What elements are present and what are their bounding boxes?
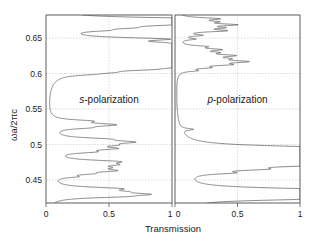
x-tick-label-left-05: 0.5 (103, 209, 115, 219)
y-tick-label: 0.45 (25, 175, 42, 185)
panel-s-polarization: s-polarization (46, 15, 172, 203)
x-tick-marks (46, 203, 300, 207)
x-tick-label-left-0: 0 (44, 209, 49, 219)
x-tick-label-right-0: 0 (176, 209, 181, 219)
y-axis-title: ωa/2πc (8, 109, 19, 141)
x-axis-title: Transmission (145, 223, 201, 234)
y-tick-labels: 0.45 0.5 0.55 0.6 0.65 (25, 33, 42, 185)
transmission-spectrum-figure: ωa/2πc 0.45 0.5 0.55 0.6 0.65 (0, 0, 312, 242)
figure-canvas: ωa/2πc 0.45 0.5 0.55 0.6 0.65 (0, 0, 312, 242)
panel-label-p-rest: -polarization (213, 94, 267, 105)
y-tick-label: 0.55 (25, 104, 42, 114)
panel-label-s-rest: -polarization (84, 94, 138, 105)
y-axis-title-text: ωa/2πc (8, 109, 19, 141)
panel-label-s-polarization: s-polarization (79, 94, 138, 105)
x-tick-label-right-05: 0.5 (232, 209, 244, 219)
x-tick-labels: 0 0.5 1 0 0.5 1 (44, 209, 303, 219)
panel-p-polarization: p-polarization (175, 15, 300, 203)
y-tick-label: 0.5 (30, 140, 42, 150)
x-tick-label-right-1: 1 (298, 209, 303, 219)
y-tick-label: 0.6 (30, 69, 42, 79)
x-tick-label-left-1: 1 (168, 209, 173, 219)
panel-label-p-polarization: p-polarization (206, 94, 267, 105)
y-tick-label: 0.65 (25, 33, 42, 43)
